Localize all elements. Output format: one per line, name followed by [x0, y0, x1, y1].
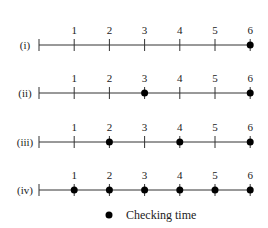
tick-label: 5	[212, 24, 218, 36]
checking-time-dot-icon	[212, 187, 219, 194]
timeline-row: (iii)123456	[17, 121, 254, 149]
checking-time-dot-icon	[247, 139, 254, 146]
tick-label: 3	[142, 121, 148, 133]
tick-label: 1	[71, 169, 77, 181]
checking-time-dot-icon	[247, 187, 254, 194]
tick-label: 4	[177, 169, 183, 181]
checking-time-dot-icon	[176, 139, 183, 146]
checking-time-dot-icon	[247, 90, 254, 97]
tick-label: 5	[212, 72, 218, 84]
tick-label: 5	[212, 121, 218, 133]
tick-label: 6	[247, 24, 253, 36]
checking-time-dot-icon	[247, 42, 254, 49]
checking-time-dot-icon	[141, 187, 148, 194]
checking-time-dot-icon	[141, 90, 148, 97]
tick-label: 1	[71, 72, 77, 84]
legend: Checking time	[106, 208, 197, 222]
checking-time-dot-icon	[106, 187, 113, 194]
checking-time-diagram: (i)123456(ii)123456(iii)123456(iv)123456…	[0, 0, 268, 228]
tick-label: 1	[71, 121, 77, 133]
timeline-row: (ii)123456	[18, 72, 253, 100]
row-label: (ii)	[18, 87, 32, 100]
tick-label: 4	[177, 72, 183, 84]
tick-label: 2	[107, 121, 113, 133]
row-label: (iv)	[17, 184, 33, 197]
legend-label: Checking time	[126, 208, 196, 222]
checking-time-dot-icon	[176, 187, 183, 194]
timeline-row: (i)123456	[20, 24, 254, 52]
timeline-row: (iv)123456	[17, 169, 254, 197]
tick-label: 4	[177, 24, 183, 36]
tick-label: 2	[107, 169, 113, 181]
tick-label: 6	[247, 169, 253, 181]
tick-label: 3	[142, 72, 148, 84]
tick-label: 2	[107, 24, 113, 36]
tick-label: 2	[107, 72, 113, 84]
tick-label: 6	[247, 121, 253, 133]
tick-label: 5	[212, 169, 218, 181]
row-label: (iii)	[17, 136, 34, 149]
tick-label: 6	[247, 72, 253, 84]
legend-dot-icon	[106, 212, 113, 219]
checking-time-dot-icon	[71, 187, 78, 194]
tick-label: 1	[71, 24, 77, 36]
checking-time-dot-icon	[106, 139, 113, 146]
tick-label: 3	[142, 169, 148, 181]
tick-label: 3	[142, 24, 148, 36]
tick-label: 4	[177, 121, 183, 133]
row-label: (i)	[20, 39, 31, 52]
